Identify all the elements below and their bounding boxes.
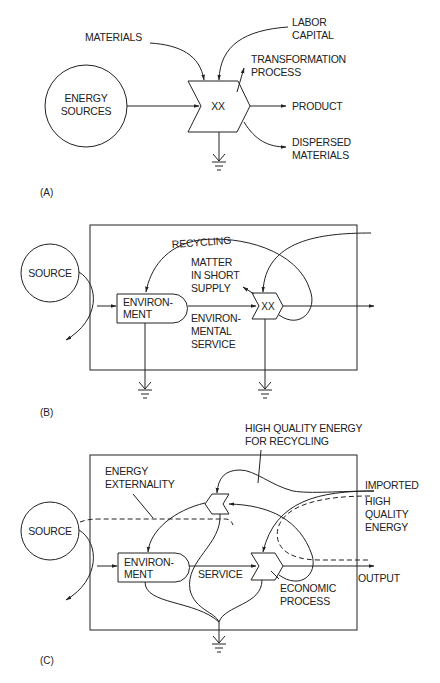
source-label-b: SOURCE: [28, 267, 72, 279]
imported-label-1: IMPORTED: [365, 479, 419, 491]
source-label-c: SOURCE: [28, 525, 72, 537]
matter-label-2: IN SHORT: [191, 269, 240, 281]
matter-label-1: MATTER: [191, 256, 233, 268]
labor-label: LABOR: [292, 16, 327, 28]
env-service-label-1: ENVIRON-: [191, 312, 241, 324]
environment-label-c-2: MENT: [124, 568, 154, 580]
externality-label-2: EXTERNALITY: [105, 478, 175, 490]
matter-label-3: SUPPLY: [191, 282, 231, 294]
energy-sources-label-1: ENERGY: [64, 92, 107, 104]
recycled-to-environment-arrow: [148, 503, 205, 552]
transformation-label-1: TRANSFORMATION: [251, 53, 346, 65]
externality-pointer: [133, 494, 153, 518]
diagram-a: ENERGY SOURCES XX MATERIALS LABOR CAPITA…: [40, 16, 351, 198]
economic-label-1: ECONOMIC: [280, 582, 337, 594]
process-xx-label-b: XX: [261, 301, 275, 312]
economic-label-2: PROCESS: [280, 595, 330, 607]
heat-sink-icon: [212, 132, 226, 170]
environment-label-b-2: MENT: [123, 308, 153, 320]
heat-sink-icon: [138, 323, 152, 398]
product-label: PRODUCT: [292, 100, 343, 112]
recycling-process-box: [205, 494, 229, 514]
externality-label-1: ENERGY: [105, 465, 148, 477]
matter-pointer: [243, 287, 254, 294]
materials-arrow: [150, 43, 204, 80]
materials-label: MATERIALS: [85, 31, 142, 43]
hq-energy-to-recycling-arrow: [217, 470, 374, 493]
environment-label-b-1: ENVIRON-: [123, 296, 173, 308]
panel-c-label: (C): [40, 655, 54, 666]
environment-label-c-1: ENVIRON-: [124, 556, 174, 568]
heat-flow-environment: [145, 582, 219, 622]
panel-b-label: (B): [40, 407, 53, 418]
heat-flow-economic: [219, 580, 262, 622]
service-label: SERVICE: [198, 568, 243, 580]
env-service-label-2: MENTAL: [191, 325, 232, 337]
dispersed-label-2: MATERIALS: [292, 149, 349, 161]
imported-label-2: HIGH: [365, 495, 390, 507]
panel-a-label: (A): [40, 187, 53, 198]
transformation-label-2: PROCESS: [251, 66, 301, 78]
dispersed-arrow: [244, 122, 286, 147]
heat-sink-icon: [258, 319, 272, 398]
energy-flow-diagrams: ENERGY SOURCES XX MATERIALS LABOR CAPITA…: [0, 0, 440, 683]
env-service-label-3: SERVICE: [191, 338, 236, 350]
imported-energy-dashed-path: [277, 496, 370, 560]
energy-sources-label-2: SOURCES: [61, 105, 112, 117]
process-xx-label: XX: [211, 100, 225, 112]
imported-label-3: QUALITY: [365, 508, 409, 520]
capital-label: CAPITAL: [292, 29, 334, 41]
hq-recycling-label-2: FOR RECYCLING: [245, 435, 329, 447]
dispersed-label-1: DISPERSED: [292, 136, 351, 148]
imported-label-4: ENERGY: [365, 521, 408, 533]
output-label: OUTPUT: [358, 572, 401, 584]
diagram-c: HIGH QUALITY ENERGY FOR RECYCLING SOURCE…: [21, 422, 419, 666]
hq-recycling-label-1: HIGH QUALITY ENERGY: [245, 422, 363, 434]
external-input-arrow-b: [263, 233, 371, 292]
recycling-label: RECYCLING: [171, 234, 231, 250]
heat-sink-icon: [212, 622, 226, 652]
energy-externality-dashed-flow: [80, 519, 233, 525]
diagram-b: SOURCE ENVIRON- MENT XX RECYCLING MATTER…: [21, 225, 374, 418]
